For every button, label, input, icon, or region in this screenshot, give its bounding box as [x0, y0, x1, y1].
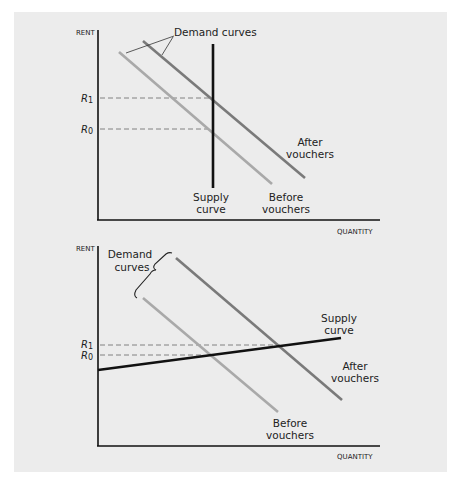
top-before-vouchers-curve	[119, 52, 272, 184]
bottom-supply-label-line2: curve	[324, 324, 353, 336]
top-supply-label-line1: Supply	[193, 191, 229, 203]
bottom-rent-label: RENT	[76, 245, 96, 253]
top-rent-label: RENT	[76, 29, 96, 37]
top-after-label-line1: After	[297, 136, 323, 148]
bottom-supply-label-line1: Supply	[321, 312, 357, 324]
top-chart: RENT QUANTITY R1 R0 Demand curves Supply…	[76, 26, 380, 236]
top-after-vouchers-curve	[143, 41, 305, 178]
top-r1-label: R1	[81, 93, 93, 105]
bottom-after-label-line1: After	[342, 360, 368, 372]
bottom-quantity-label: QUANTITY	[337, 453, 373, 461]
bottom-chart: RENT QUANTITY R1 R0 Demand curves Supply…	[76, 245, 380, 461]
bottom-demand-label-line2: curves	[115, 261, 150, 273]
top-demand-curves-label: Demand curves	[174, 26, 257, 38]
top-supply-label-line2: curve	[196, 203, 225, 215]
bottom-after-label-line2: vouchers	[331, 372, 379, 384]
top-quantity-label: QUANTITY	[337, 228, 373, 236]
top-r0-label: R0	[81, 124, 93, 136]
top-before-label-line2: vouchers	[262, 203, 310, 215]
top-demand-leader-1	[126, 36, 174, 53]
housing-voucher-diagram: RENT QUANTITY R1 R0 Demand curves Supply…	[0, 0, 462, 488]
bottom-after-vouchers-curve	[176, 258, 342, 400]
bottom-demand-label-line1: Demand	[108, 248, 153, 260]
top-after-label-line2: vouchers	[286, 148, 334, 160]
bottom-before-label-line2: vouchers	[266, 429, 314, 441]
bottom-supply-curve	[98, 338, 341, 370]
bottom-r0-label: R0	[81, 350, 93, 362]
top-before-label-line1: Before	[269, 191, 303, 203]
bottom-before-label-line1: Before	[273, 417, 307, 429]
